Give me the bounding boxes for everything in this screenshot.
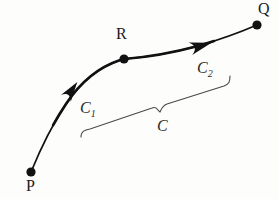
curve-c2-thick: [124, 25, 257, 59]
label-curve-c2-sub: 2: [208, 68, 213, 79]
label-curve-c1: C1: [80, 100, 96, 119]
label-curve-c1-base: C: [80, 99, 91, 116]
label-point-q: Q: [258, 1, 270, 17]
curve-c1-group: [31, 59, 124, 172]
point-dot-p: [26, 167, 35, 176]
label-curve-c2-base: C: [197, 59, 208, 76]
label-curve-c1-sub: 1: [91, 108, 96, 119]
curve-c2-group: [124, 25, 257, 59]
curve-c1-thick: [31, 59, 124, 172]
brace-c: [81, 76, 230, 137]
point-dot-r: [119, 54, 128, 63]
label-point-p: P: [26, 178, 35, 194]
label-point-r: R: [116, 26, 127, 42]
figure-svg: [0, 0, 279, 199]
point-dot-q: [252, 20, 261, 29]
label-curve-c: C: [157, 118, 168, 134]
figure-canvas: P R Q C1 C2 C: [0, 0, 279, 199]
curve-c1-thin: [31, 59, 124, 172]
arrowhead-c2-shape: [189, 36, 214, 55]
arrowhead-c2: [189, 36, 214, 55]
curve-c2-thin: [124, 25, 257, 59]
label-curve-c2: C2: [197, 60, 213, 79]
